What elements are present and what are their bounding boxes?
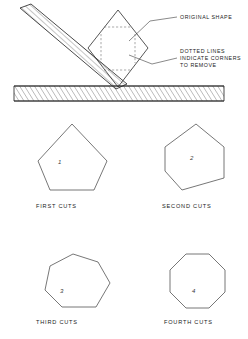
workbench-stock [14, 86, 224, 101]
shape-number-2: 2 [189, 155, 194, 161]
step-second-cuts: 2 SECOND CUTS [162, 124, 224, 209]
shape-second-cuts [165, 124, 224, 190]
step-third-cuts: 3 THIRD CUTS [36, 254, 110, 325]
step-first-cuts: 1 FIRST CUTS [36, 124, 107, 209]
shape-fourth-cuts [170, 254, 225, 308]
leader-dotted-note [129, 55, 177, 64]
caption-third-cuts: THIRD CUTS [36, 319, 78, 325]
leader-original-shape [129, 17, 177, 41]
annotation-dotted-line3: TO REMOVE [180, 62, 217, 68]
annotation-dotted-line2: INDICATE CORNERS [180, 55, 241, 61]
woodworking-octagon-diagram: ORIGINAL SHAPE DOTTED LINES INDICATE COR… [0, 0, 248, 339]
shape-third-cuts [45, 254, 110, 307]
annotation-original-shape: ORIGINAL SHAPE [180, 14, 232, 20]
square-workpiece-diamond [88, 10, 148, 87]
caption-first-cuts: FIRST CUTS [36, 203, 77, 209]
step-fourth-cuts: 4 FOURTH CUTS [164, 254, 225, 325]
top-diagram: ORIGINAL SHAPE DOTTED LINES INDICATE COR… [14, 4, 241, 101]
caption-fourth-cuts: FOURTH CUTS [164, 319, 213, 325]
plane-blade [20, 4, 127, 89]
shape-number-1: 1 [58, 159, 61, 165]
shape-first-cuts [38, 124, 107, 190]
caption-second-cuts: SECOND CUTS [162, 203, 212, 209]
annotation-dotted-line1: DOTTED LINES [180, 48, 225, 54]
